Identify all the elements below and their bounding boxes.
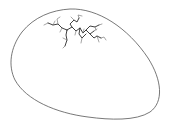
egg-drawing bbox=[0, 0, 171, 126]
egg-shell-outline bbox=[11, 9, 160, 119]
cracked-egg-illustration bbox=[0, 0, 171, 126]
crack-icon bbox=[44, 15, 106, 48]
